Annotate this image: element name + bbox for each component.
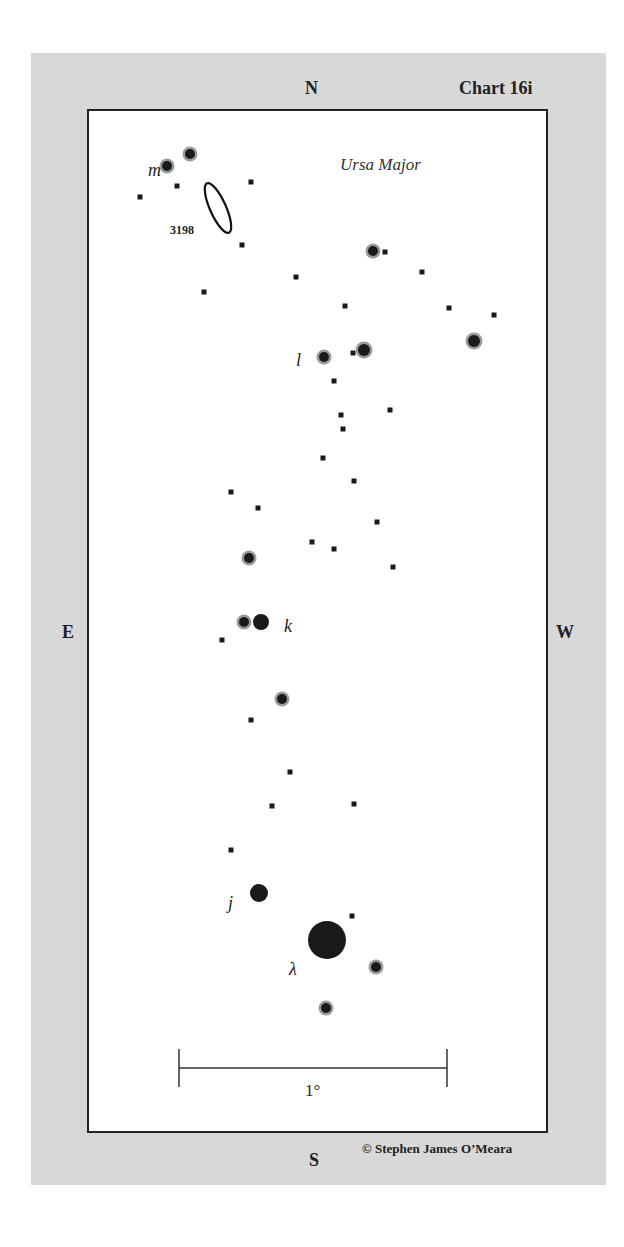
faint-star-icon (332, 547, 337, 552)
faint-star-icon (343, 304, 348, 309)
star-label: k (284, 616, 293, 636)
faint-star-icon (492, 313, 497, 318)
star-chart: mlkjλ (0, 0, 624, 1247)
faint-star-icon (350, 914, 355, 919)
scale-bar (179, 1049, 447, 1087)
star-icon (468, 335, 480, 347)
galaxy-icon (200, 180, 237, 236)
faint-star-icon (352, 479, 357, 484)
faint-star-icon (249, 718, 254, 723)
bright-stars (160, 147, 483, 1016)
star-icon (371, 962, 381, 972)
faint-star-icon (249, 180, 254, 185)
star-label: λ (288, 959, 297, 979)
faint-star-icon (294, 275, 299, 280)
star-icon (162, 161, 172, 171)
faint-star-icon (310, 540, 315, 545)
faint-star-icon (138, 195, 143, 200)
faint-star-icon (175, 184, 180, 189)
faint-star-icon (388, 408, 393, 413)
faint-star-icon (202, 290, 207, 295)
faint-star-icon (383, 250, 388, 255)
faint-star-icon (240, 243, 245, 248)
star-icon (244, 553, 254, 563)
faint-star-icon (229, 848, 234, 853)
faint-star-icon (256, 506, 261, 511)
faint-star-icon (341, 427, 346, 432)
faint-star-icon (420, 270, 425, 275)
faint-star-icon (229, 490, 234, 495)
faint-star-icon (447, 306, 452, 311)
star-label: j (226, 893, 233, 913)
faint-star-icon (321, 456, 326, 461)
faint-star-icon (270, 804, 275, 809)
faint-star-icon (352, 802, 357, 807)
star-label: l (296, 350, 301, 370)
star-icon (277, 694, 287, 704)
star-icon (368, 246, 378, 256)
star-icon (185, 149, 195, 159)
faint-star-icon (391, 565, 396, 570)
faint-star-icon (332, 379, 337, 384)
star-icon (358, 344, 370, 356)
star-icon (319, 352, 329, 362)
faint-star-icon (288, 770, 293, 775)
faint-stars (138, 180, 497, 919)
galaxy-ngc3198-icon (200, 180, 237, 236)
star-icon (250, 884, 268, 902)
faint-star-icon (375, 520, 380, 525)
star-label: m (148, 160, 161, 180)
star-labels: mlkjλ (148, 160, 301, 979)
star-icon (253, 614, 269, 630)
star-icon (321, 1003, 331, 1013)
faint-star-icon (339, 413, 344, 418)
star-icon (308, 921, 346, 959)
faint-star-icon (220, 638, 225, 643)
faint-star-icon (351, 351, 356, 356)
star-icon (239, 617, 249, 627)
